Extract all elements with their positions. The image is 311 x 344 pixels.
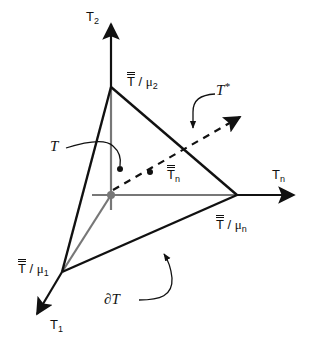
point-tn-bar: [147, 169, 153, 175]
simplex-triangle: [62, 87, 237, 272]
pointer-t-star: [193, 94, 215, 128]
point-t-set: [117, 166, 123, 172]
boundary-label: ∂T: [104, 292, 120, 307]
set-label-t-star: T*: [216, 83, 230, 98]
vertex-label-mu1: T / μ1: [18, 262, 49, 275]
axis-label-tn: Tn: [272, 168, 285, 181]
origin-dot: [107, 191, 115, 199]
vertex-label-mu2: T / μ2: [127, 75, 158, 88]
axis-t1: [37, 272, 62, 314]
axis-label-t2: T2: [86, 10, 99, 23]
point-label-tn-bar: Tn: [167, 168, 180, 181]
inner-axes: [62, 87, 237, 272]
set-label-t: T: [50, 139, 58, 154]
pointer-boundary: [139, 254, 172, 300]
axis-label-t1: T1: [50, 318, 63, 331]
diagram-canvas: [0, 0, 311, 344]
vertex-label-mun: T / μn: [216, 218, 247, 231]
